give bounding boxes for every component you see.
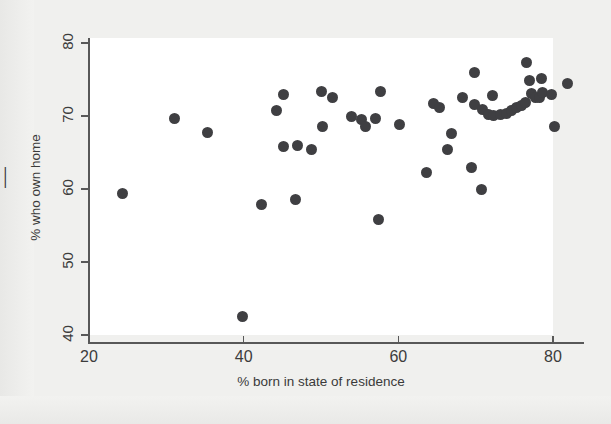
x-tick-60 [398,336,400,343]
y-axis-line [88,38,90,336]
y-tick-60 [81,188,88,190]
y-tick-label-40: 40 [59,323,76,345]
x-axis-label: % born in state of residence [89,374,553,389]
data-point [256,199,267,210]
data-point [346,111,357,122]
data-point [562,78,573,89]
x-tick-80 [552,336,554,343]
cropped-text-fragment: | [3,163,14,189]
data-point [549,121,560,132]
x-tick-label-60: 60 [378,348,418,366]
y-tick-label-80: 80 [59,31,76,53]
y-tick-70 [81,115,88,117]
data-point [278,141,289,152]
x-axis-line [88,342,584,344]
data-point [271,105,282,116]
x-tick-label-20: 20 [69,348,109,366]
y-tick-50 [81,261,88,263]
y-axis-label: % who own home [28,108,43,268]
y-tick-label-70: 70 [59,104,76,126]
x-tick-label-80: 80 [533,348,573,366]
data-point [434,102,445,113]
data-point [373,214,384,225]
x-tick-40 [243,336,245,343]
data-point [290,194,301,205]
data-point [546,89,557,100]
scatter-plot-figure: | 4050607080 20406080 % who own home % b… [0,0,611,424]
y-tick-80 [81,42,88,44]
x-tick-label-40: 40 [224,348,264,366]
y-tick-40 [81,334,88,336]
data-point [524,75,535,86]
data-point [469,67,480,78]
data-point [237,311,248,322]
x-tick-20 [88,336,90,343]
data-point [117,188,128,199]
y-tick-label-60: 60 [59,177,76,199]
data-point [327,92,338,103]
data-point [442,144,453,155]
data-point [370,113,381,124]
page-bottom-shading [0,396,611,424]
data-point [476,184,487,195]
y-tick-label-50: 50 [59,250,76,272]
data-point [316,86,327,97]
